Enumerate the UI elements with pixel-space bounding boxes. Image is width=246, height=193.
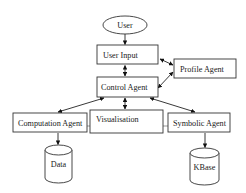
visualisation-label: Visualisation	[96, 115, 139, 124]
node-kbase: KBase	[190, 148, 219, 185]
node-data: Data	[45, 145, 72, 183]
node-user: User	[103, 16, 147, 34]
node-user-input: User Input	[97, 45, 158, 64]
node-computation-agent: Computation Agent	[13, 113, 87, 132]
node-symbolic-agent: Symbolic Agent	[168, 113, 230, 132]
data-label: Data	[51, 160, 67, 169]
control-agent-label: Control Agent	[101, 83, 148, 92]
data-cylinder-top	[45, 145, 72, 155]
user-input-label: User Input	[103, 51, 139, 60]
symbolic-agent-label: Symbolic Agent	[173, 119, 227, 128]
node-profile-agent: Profile Agent	[174, 59, 236, 78]
user-label: User	[117, 21, 133, 30]
edge-user-input-profile-agent	[160, 59, 173, 65]
profile-agent-label: Profile Agent	[180, 65, 225, 74]
edge-profile-agent-control-agent	[158, 72, 173, 88]
diagram-canvas: User User Input Profile Agent Control Ag…	[0, 0, 246, 193]
node-visualisation: Visualisation	[90, 110, 163, 133]
node-control-agent: Control Agent	[97, 77, 158, 97]
kbase-cylinder-top	[190, 148, 219, 158]
computation-agent-label: Computation Agent	[18, 119, 83, 128]
kbase-label: KBase	[194, 163, 216, 172]
